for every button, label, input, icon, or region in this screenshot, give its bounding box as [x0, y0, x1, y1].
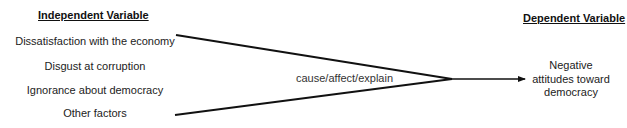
connector-label: cause/affect/explain	[296, 72, 393, 84]
dv-item: Negative attitudes toward democracy	[521, 59, 621, 100]
bottom-converging-line	[175, 79, 452, 115]
dv-line-3: democracy	[521, 86, 621, 100]
dependent-variable-heading: Dependent Variable	[523, 12, 625, 24]
dv-line-1: Negative	[521, 59, 621, 73]
causal-diagram: Independent Variable Dissatisfaction wit…	[0, 0, 627, 128]
dv-line-2: attitudes toward	[521, 73, 621, 87]
